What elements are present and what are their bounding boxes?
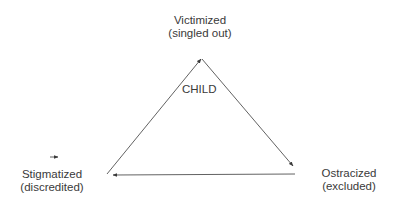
node-subtitle: (discredited) bbox=[2, 181, 102, 194]
node-subtitle: (singled out) bbox=[150, 27, 250, 40]
node-stigmatized: Stigmatized (discredited) bbox=[2, 168, 102, 194]
node-title: Stigmatized bbox=[2, 168, 102, 181]
center-label: CHILD bbox=[182, 83, 217, 95]
node-title: Ostracized bbox=[299, 167, 393, 180]
edge-top-to-right bbox=[202, 59, 293, 166]
node-ostracized: Ostracized (excluded) bbox=[299, 167, 393, 193]
node-title: Victimized bbox=[150, 14, 250, 27]
node-subtitle: (excluded) bbox=[299, 180, 393, 193]
node-victimized: Victimized (singled out) bbox=[150, 14, 250, 40]
edge-right-to-left bbox=[113, 174, 295, 175]
edge-left-to-top bbox=[107, 59, 201, 174]
